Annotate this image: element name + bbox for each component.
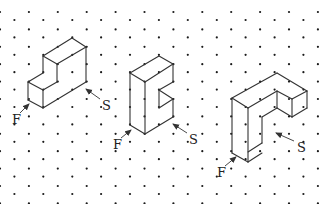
grid-dot: [71, 176, 73, 178]
grid-dot: [143, 202, 145, 204]
grid-dot: [302, 19, 304, 21]
solid-edge: [145, 64, 173, 82]
grid-dot: [172, 168, 174, 170]
grid-dot: [274, 141, 276, 143]
grid-dot: [57, 11, 59, 13]
grid-dot: [259, 168, 261, 170]
grid-dot: [274, 176, 276, 178]
grid-dot: [0, 46, 1, 48]
grid-dot: [28, 63, 30, 65]
grid-dot: [57, 185, 59, 187]
grid-dot: [216, 193, 218, 195]
grid-dot: [317, 81, 319, 83]
front-arrow-icon: [225, 157, 236, 166]
grid-dot: [288, 11, 290, 13]
grid-dot: [172, 202, 174, 204]
grid-dot: [216, 36, 218, 38]
grid-dot: [0, 11, 1, 13]
grid-dot: [115, 133, 117, 135]
grid-dot: [28, 133, 30, 135]
grid-dot: [302, 158, 304, 160]
grid-dot: [100, 158, 102, 160]
grid-dot: [0, 115, 1, 117]
solid-edge: [292, 108, 307, 117]
grid-dot: [115, 63, 117, 65]
grid-dot: [28, 46, 30, 48]
grid-dot: [115, 11, 117, 13]
solid-edge: [277, 91, 292, 99]
side-view-label: S: [297, 140, 306, 155]
grid-dot: [274, 19, 276, 21]
solid-edge: [248, 153, 262, 162]
grid-dot: [317, 63, 319, 65]
grid-dot: [13, 176, 15, 178]
grid-dot: [317, 11, 319, 13]
front-view-label: F: [12, 112, 21, 127]
grid-dot: [0, 133, 1, 135]
grid-dot: [288, 63, 290, 65]
grid-dot: [86, 11, 88, 13]
solid-edge: [277, 73, 307, 91]
grid-dot: [115, 168, 117, 170]
grid-dot: [172, 28, 174, 30]
solid-edge: [43, 38, 72, 56]
grid-dot: [86, 98, 88, 100]
grid-dot: [288, 185, 290, 187]
grid-dot: [216, 71, 218, 73]
grid-dot: [201, 46, 203, 48]
grid-dot: [100, 123, 102, 125]
solid-edge: [262, 108, 277, 117]
solid-edge: [130, 56, 159, 73]
grid-dot: [0, 185, 1, 187]
grid-dot: [317, 98, 319, 100]
grid-dot: [0, 63, 1, 65]
grid-dot: [274, 193, 276, 195]
grid-dot: [28, 115, 30, 117]
solid-edge: [28, 82, 43, 90]
grid-dot: [57, 168, 59, 170]
grid-dot: [259, 28, 261, 30]
grid-dot: [187, 36, 189, 38]
grid-dot: [274, 89, 276, 91]
grid-dot: [71, 141, 73, 143]
grid-dot: [13, 193, 15, 195]
grid-dot: [259, 133, 261, 135]
grid-dot: [0, 81, 1, 83]
grid-dot: [28, 202, 30, 204]
grid-dot: [230, 11, 232, 13]
grid-dot: [259, 115, 261, 117]
grid-dot: [259, 150, 261, 152]
grid-dot: [42, 36, 44, 38]
grid-dot: [71, 158, 73, 160]
grid-dot: [201, 28, 203, 30]
grid-dot: [13, 71, 15, 73]
grid-dot: [71, 71, 73, 73]
grid-dot: [13, 141, 15, 143]
grid-dot: [245, 36, 247, 38]
grid-dot: [42, 193, 44, 195]
grid-dot: [143, 168, 145, 170]
solid-edge: [292, 91, 307, 99]
grid-dot: [317, 150, 319, 152]
side-arrow-icon: [276, 133, 294, 141]
grid-dot: [172, 185, 174, 187]
grid-dot: [143, 46, 145, 48]
grid-dot: [216, 89, 218, 91]
grid-dot: [201, 81, 203, 83]
grid-dot: [274, 71, 276, 73]
side-arrow-icon: [86, 89, 100, 99]
grid-dot: [216, 123, 218, 125]
grid-dot: [13, 19, 15, 21]
grid-dot: [288, 46, 290, 48]
grid-dot: [13, 54, 15, 56]
grid-dot: [245, 141, 247, 143]
grid-dot: [86, 168, 88, 170]
grid-dot: [172, 150, 174, 152]
grid-dot: [288, 202, 290, 204]
grid-dot: [57, 28, 59, 30]
grid-dot: [259, 98, 261, 100]
grid-dot: [115, 115, 117, 117]
grid-dot: [71, 123, 73, 125]
grid-dot: [158, 141, 160, 143]
grid-dot: [201, 11, 203, 13]
